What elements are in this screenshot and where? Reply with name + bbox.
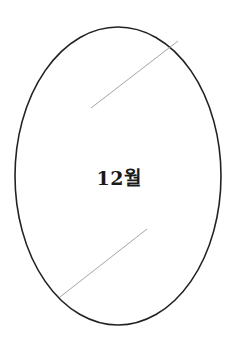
center-label: 12월 (0, 163, 238, 190)
lower-diagonal-line (60, 229, 147, 297)
upper-diagonal-line (91, 41, 178, 108)
